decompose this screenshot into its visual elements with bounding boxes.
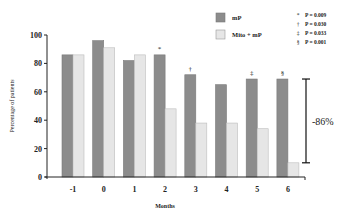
y-tick-label: 80 [34, 59, 42, 68]
y-tick-label: 20 [34, 145, 42, 154]
bars-group: *†‡§ [62, 41, 299, 177]
bar-mp-month-1 [123, 61, 134, 177]
bar-chart: *†‡§ -10123456020406080100Percentage of … [0, 0, 342, 220]
x-tick-label: -1 [70, 185, 77, 194]
x-tick-label: 4 [225, 185, 229, 194]
x-tick-label: 6 [286, 185, 290, 194]
x-tick-label: 3 [194, 185, 198, 194]
x-tick-label: 5 [255, 185, 259, 194]
y-tick-label: 40 [34, 116, 42, 125]
y-axis-title: Percentage of patients [9, 79, 15, 133]
x-axis-title: Months [155, 203, 175, 209]
bar-mito-mp-month-1 [134, 55, 145, 177]
reduction-annotation: -86% [302, 79, 334, 163]
x-tick-label: 0 [102, 185, 106, 194]
y-tick-label: 60 [34, 88, 42, 97]
x-tick-label: 2 [163, 185, 167, 194]
bar-mp-month-6 [277, 79, 288, 177]
significance-mark: § [281, 69, 285, 77]
svg-text:†: † [297, 21, 300, 27]
svg-text:‡: ‡ [297, 30, 300, 36]
bar-mito-mp-month-4 [227, 123, 238, 177]
significance-mark: † [189, 65, 193, 73]
p-value-legend: *P = 0.009†P = 0.030‡P = 0.033§P = 0.001 [297, 12, 327, 45]
bar-mito-mp-month-0 [104, 48, 115, 177]
legend-label: mP [232, 14, 241, 21]
significance-mark: ‡ [250, 69, 254, 77]
bar-mp-month-5 [246, 79, 257, 177]
x-tick-label: 1 [132, 185, 136, 194]
y-tick-label: 0 [38, 173, 42, 182]
bar-mito-mp-month-2 [165, 109, 176, 177]
p-value-text: P = 0.030 [305, 21, 327, 27]
legend-swatch [216, 13, 225, 22]
bar-mp-month-0 [93, 41, 104, 177]
legend: mPMito + mP [216, 13, 262, 39]
p-value-text: P = 0.033 [305, 30, 327, 36]
significance-mark: * [158, 45, 162, 53]
bar-mito-mp-month-3 [196, 123, 207, 177]
svg-text:*: * [297, 12, 300, 18]
bar-mito-mp-month--1 [73, 55, 84, 177]
bar-mito-mp-month-6 [288, 163, 299, 177]
legend-swatch [216, 30, 225, 39]
bar-mp-month-2 [154, 55, 165, 177]
bar-mp-month--1 [62, 55, 73, 177]
svg-text:§: § [297, 39, 300, 45]
y-tick-label: 100 [30, 31, 42, 40]
bar-mp-month-3 [185, 75, 196, 177]
bar-mito-mp-month-5 [257, 129, 268, 177]
bar-mp-month-4 [216, 85, 227, 177]
p-value-text: P = 0.001 [305, 39, 327, 45]
legend-label: Mito + mP [232, 31, 262, 38]
p-value-text: P = 0.009 [305, 12, 327, 18]
reduction-label: -86% [312, 116, 334, 127]
